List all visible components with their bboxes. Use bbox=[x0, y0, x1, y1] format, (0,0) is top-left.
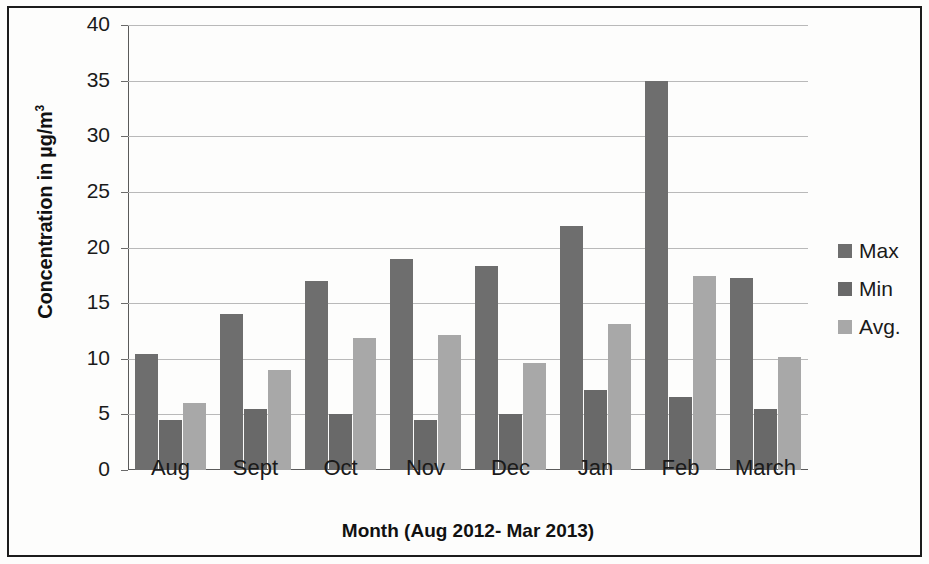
y-axis-tick bbox=[121, 192, 128, 193]
x-axis-tick-label: Jan bbox=[553, 455, 638, 481]
bar-max-feb bbox=[645, 81, 668, 470]
bar-max-march bbox=[730, 278, 753, 470]
legend-item-min: Min bbox=[838, 270, 918, 308]
bar-avg-dec bbox=[523, 363, 546, 470]
y-axis-tick bbox=[121, 359, 128, 360]
legend-label: Avg. bbox=[859, 315, 901, 339]
y-axis-tick-label: 40 bbox=[48, 12, 110, 36]
y-axis-tick bbox=[121, 303, 128, 304]
bar-group bbox=[553, 25, 638, 470]
chart-figure: Concentration in µg/m3 0510152025303540 … bbox=[0, 0, 929, 564]
x-axis-tick-label: Nov bbox=[383, 455, 468, 481]
bar-avg-feb bbox=[693, 276, 716, 470]
bar-max-jan bbox=[560, 226, 583, 470]
y-axis-tick bbox=[121, 25, 128, 26]
y-axis-tick-label: 0 bbox=[48, 457, 110, 481]
y-axis-tick bbox=[121, 136, 128, 137]
legend-item-avg: Avg. bbox=[838, 308, 918, 346]
y-axis-tick-label: 20 bbox=[48, 235, 110, 259]
bar-max-nov bbox=[390, 259, 413, 470]
bar-group bbox=[468, 25, 553, 470]
bar-max-sept bbox=[220, 314, 243, 470]
legend-swatch-icon bbox=[838, 244, 852, 258]
x-axis-tick-label: Feb bbox=[638, 455, 723, 481]
chart-legend: MaxMinAvg. bbox=[838, 232, 918, 346]
y-axis-tick-label: 5 bbox=[48, 401, 110, 425]
x-axis-tick-label: Sept bbox=[213, 455, 298, 481]
bar-max-dec bbox=[475, 266, 498, 470]
y-axis-tick-label: 10 bbox=[48, 346, 110, 370]
bar-avg-march bbox=[778, 357, 801, 470]
legend-label: Max bbox=[859, 239, 899, 263]
x-axis-tick-label: Oct bbox=[298, 455, 383, 481]
bar-group bbox=[128, 25, 213, 470]
bar-max-aug bbox=[135, 354, 158, 470]
y-axis-tick bbox=[121, 470, 128, 471]
y-axis-title-exponent: 3 bbox=[33, 105, 47, 111]
bar-max-oct bbox=[305, 281, 328, 470]
y-axis-tick bbox=[121, 81, 128, 82]
x-axis-title: Month (Aug 2012- Mar 2013) bbox=[128, 520, 808, 542]
bar-avg-jan bbox=[608, 324, 631, 470]
bar-group bbox=[723, 25, 808, 470]
y-axis-tick-label: 15 bbox=[48, 290, 110, 314]
x-axis-tick-label: Dec bbox=[468, 455, 553, 481]
y-axis-tick bbox=[121, 248, 128, 249]
legend-swatch-icon bbox=[838, 320, 852, 334]
bar-group bbox=[298, 25, 383, 470]
y-axis-tick bbox=[121, 414, 128, 415]
legend-swatch-icon bbox=[838, 282, 852, 296]
bar-group bbox=[213, 25, 298, 470]
bar-avg-oct bbox=[353, 338, 376, 470]
legend-label: Min bbox=[859, 277, 893, 301]
bar-avg-nov bbox=[438, 335, 461, 470]
x-axis-tick-label: March bbox=[723, 455, 808, 481]
legend-item-max: Max bbox=[838, 232, 918, 270]
bar-group bbox=[383, 25, 468, 470]
y-axis-tick-label: 25 bbox=[48, 179, 110, 203]
y-axis-tick-label: 30 bbox=[48, 123, 110, 147]
x-axis-tick-label: Aug bbox=[128, 455, 213, 481]
y-axis-tick-label: 35 bbox=[48, 68, 110, 92]
bar-group bbox=[638, 25, 723, 470]
plot-area: 0510152025303540 bbox=[128, 25, 808, 470]
